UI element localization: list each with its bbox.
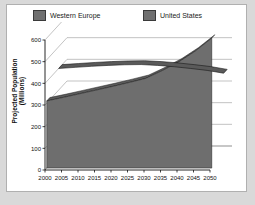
svg-text:2050: 2050 <box>203 175 217 181</box>
legend-swatch-united-states <box>143 10 156 21</box>
legend-label-western-europe: Western Europe <box>50 12 100 19</box>
svg-text:600: 600 <box>31 37 42 43</box>
y-axis-title: Projected Population (Millions) <box>11 45 25 137</box>
svg-text:0: 0 <box>38 167 42 173</box>
legend-item-united-states: United States <box>143 8 202 22</box>
svg-text:500: 500 <box>31 59 42 65</box>
svg-text:2000: 2000 <box>38 175 52 181</box>
svg-text:2005: 2005 <box>55 175 69 181</box>
legend-label-united-states: United States <box>160 12 202 19</box>
svg-text:2020: 2020 <box>104 175 118 181</box>
y-axis-ticks: 0100200300400500600 <box>31 37 45 173</box>
svg-text:2040: 2040 <box>170 175 184 181</box>
svg-text:2030: 2030 <box>137 175 151 181</box>
svg-text:2015: 2015 <box>88 175 102 181</box>
series-surfaces <box>47 35 227 168</box>
plot-area: 0100200300400500600 20002005201020152020… <box>7 22 248 192</box>
svg-text:400: 400 <box>31 81 42 87</box>
page-bottom-strip <box>0 193 255 205</box>
legend-swatch-western-europe <box>33 10 46 21</box>
svg-text:300: 300 <box>31 102 42 108</box>
svg-text:2035: 2035 <box>154 175 168 181</box>
svg-text:200: 200 <box>31 124 42 130</box>
svg-text:100: 100 <box>31 146 42 152</box>
area-chart-3d: 0100200300400500600 20002005201020152020… <box>7 22 248 192</box>
chart-frame: Western Europe United States 01002003004… <box>6 4 247 192</box>
legend-item-western-europe: Western Europe <box>33 8 100 22</box>
svg-text:2045: 2045 <box>187 175 201 181</box>
svg-text:2010: 2010 <box>71 175 85 181</box>
x-axis-ticks: 2000200520102015202020252030203520402045… <box>38 170 217 181</box>
svg-text:2025: 2025 <box>121 175 135 181</box>
